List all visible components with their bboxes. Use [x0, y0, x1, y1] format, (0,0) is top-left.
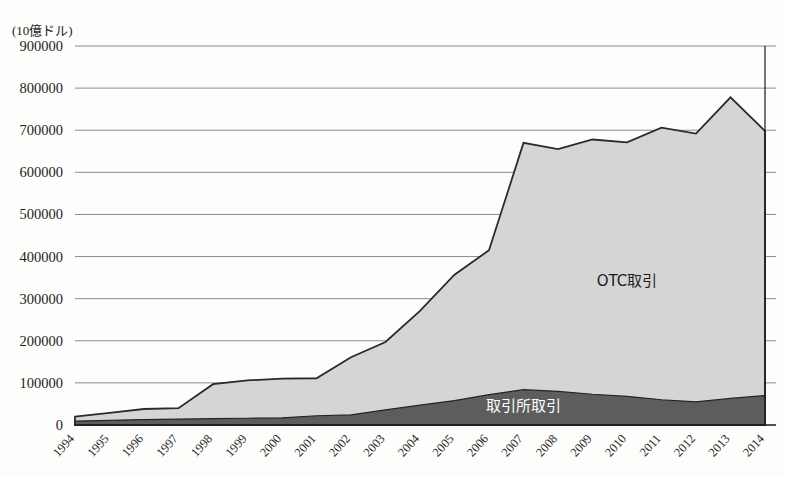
y-tick-label-500000: 500000 — [20, 206, 64, 222]
y-axis-unit-label: (10億ドル) — [12, 23, 73, 38]
x-tick-label-1997: 1997 — [154, 432, 181, 460]
x-tick-label-1994: 1994 — [50, 431, 78, 460]
x-tick-label-2004: 2004 — [395, 431, 423, 460]
x-tick-label-2006: 2006 — [464, 432, 491, 460]
x-tick-label-2003: 2003 — [361, 432, 388, 460]
y-tick-label-900000: 900000 — [20, 38, 64, 54]
area-series-otc — [75, 97, 765, 425]
y-tick-label-400000: 400000 — [20, 249, 64, 265]
x-tick-label-2011: 2011 — [637, 432, 664, 460]
x-tick-label-1996: 1996 — [119, 432, 146, 460]
y-tick-label-300000: 300000 — [20, 291, 64, 307]
otc-series-label: OTC取引 — [597, 272, 658, 290]
x-tick-label-1999: 1999 — [223, 432, 250, 460]
x-tick-label-2007: 2007 — [499, 432, 526, 460]
y-tick-label-200000: 200000 — [20, 333, 64, 349]
x-tick-label-2000: 2000 — [257, 432, 284, 460]
x-tick-label-2002: 2002 — [326, 432, 353, 460]
y-tick-label-0: 0 — [56, 417, 63, 433]
y-axis-ticks-group: 9000008000007000006000005000004000003000… — [20, 38, 64, 433]
x-tick-label-2008: 2008 — [533, 432, 560, 460]
x-tick-label-2014: 2014 — [740, 431, 768, 460]
chart-container: 9000008000007000006000005000004000003000… — [0, 0, 786, 477]
exchange-series-label: 取引所取引 — [486, 397, 561, 415]
y-tick-label-700000: 700000 — [20, 122, 64, 138]
stacked-areas-group — [75, 97, 765, 425]
x-tick-label-2005: 2005 — [430, 432, 457, 460]
x-axis-ticks-group: 1994199519961997199819992000200120022003… — [50, 431, 768, 460]
y-tick-label-100000: 100000 — [20, 375, 64, 391]
x-tick-label-2012: 2012 — [671, 432, 698, 460]
x-tick-label-2013: 2013 — [706, 432, 733, 460]
y-tick-label-800000: 800000 — [20, 80, 64, 96]
area-chart: 9000008000007000006000005000004000003000… — [0, 0, 786, 477]
x-tick-label-2009: 2009 — [568, 432, 595, 460]
x-tick-label-2010: 2010 — [602, 432, 629, 460]
x-tick-label-1995: 1995 — [85, 432, 112, 460]
x-tick-label-1998: 1998 — [188, 432, 215, 460]
y-tick-label-600000: 600000 — [20, 164, 64, 180]
x-tick-label-2001: 2001 — [292, 432, 319, 460]
